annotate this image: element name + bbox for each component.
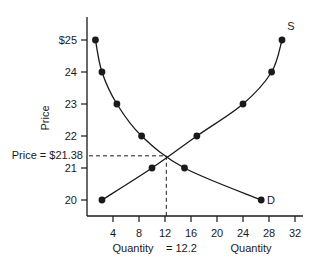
axes — [81, 17, 303, 222]
x-tick-label: 4 — [110, 227, 116, 239]
y-tick-label: 21 — [65, 162, 77, 174]
x-axis-title: Quantity — [231, 242, 272, 254]
data-points — [92, 37, 285, 204]
curves — [95, 40, 282, 200]
x-tick-label: 12 — [159, 227, 171, 239]
supply-curve — [102, 40, 282, 200]
supply-point — [99, 197, 106, 204]
x-tick-label: 16 — [185, 227, 197, 239]
supply-point — [149, 165, 156, 172]
x-tick-label: 28 — [263, 227, 275, 239]
supply-point — [193, 133, 200, 140]
demand-curve-label: D — [267, 194, 275, 206]
x-tick-label: 32 — [289, 227, 301, 239]
y-tick-label: 23 — [65, 98, 77, 110]
y-tick-label: 22 — [65, 130, 77, 142]
equilibrium-price-label: Price = $21.38 — [12, 149, 83, 161]
tick-labels: 2021222324$2548121620242832 — [59, 34, 301, 239]
demand-point — [92, 37, 99, 44]
x-tick-label: 20 — [211, 227, 223, 239]
supply-demand-chart: 2021222324$2548121620242832 Price Price … — [0, 0, 316, 263]
x-tick-label: 8 — [136, 227, 142, 239]
demand-point — [99, 69, 106, 76]
y-tick-label: $25 — [59, 34, 77, 46]
y-axis-title: Price — [39, 105, 51, 130]
demand-point — [258, 197, 265, 204]
demand-point — [114, 101, 121, 108]
y-tick-label: 20 — [65, 194, 77, 206]
supply-curve-label: S — [287, 20, 294, 32]
supply-point — [279, 37, 286, 44]
demand-point — [181, 165, 188, 172]
supply-point — [240, 101, 247, 108]
supply-point — [268, 69, 275, 76]
equilibrium-quantity-prefix: Quantity — [113, 242, 154, 254]
equilibrium-quantity-value: = 12.2 — [166, 242, 197, 254]
demand-point — [138, 133, 145, 140]
y-tick-label: 24 — [65, 66, 77, 78]
x-tick-label: 24 — [237, 227, 249, 239]
equilibrium-guides — [89, 156, 166, 216]
demand-curve — [95, 40, 261, 200]
